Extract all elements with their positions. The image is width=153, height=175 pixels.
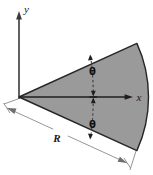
radius-dimension-label: R [52, 132, 60, 144]
angle-arrowhead-down-icon [88, 134, 93, 140]
dim-tick-right [124, 158, 131, 168]
angle-theta-upper-label: θ [89, 66, 96, 77]
x-axis-label: x [136, 91, 142, 103]
axis-arrow-up-icon [16, 11, 22, 20]
sector-diagram-svg: y x θ θ R [0, 0, 153, 175]
figure-container: y x θ θ R [0, 0, 153, 175]
angle-theta-lower-label: θ [89, 119, 96, 130]
dim-extension-left [4, 99, 18, 104]
angle-arrowhead-up-icon [88, 55, 93, 61]
y-axis-label: y [23, 3, 29, 15]
dim-extension-right [130, 151, 136, 170]
dim-tick-left [4, 103, 11, 113]
